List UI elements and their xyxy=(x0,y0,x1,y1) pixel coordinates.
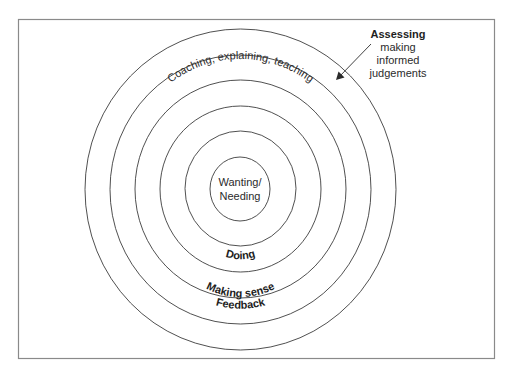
assessing-line1: making xyxy=(380,41,415,53)
assessing-line3: judgements xyxy=(369,67,427,79)
assessing-line2: informed xyxy=(377,54,420,66)
learning-model-diagram: Wanting/ Needing Coaching, explaining, t… xyxy=(0,0,511,373)
assessing-title: Assessing xyxy=(370,28,425,40)
center-label-line1: Wanting/ xyxy=(218,176,262,188)
center-label-line2: Needing xyxy=(220,190,261,202)
